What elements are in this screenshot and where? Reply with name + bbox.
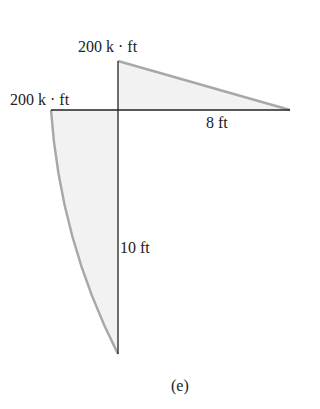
- top-moment-label: 200 k · ft: [78, 39, 137, 55]
- horizontal-length-label: 8 ft: [206, 115, 228, 131]
- vertical-member-moment-region: [51, 110, 118, 354]
- figure-caption: (e): [171, 378, 189, 394]
- moment-diagram: 200 k · ft 200 k · ft 8 ft 10 ft (e): [0, 0, 320, 409]
- vertical-length-label: 10 ft: [120, 240, 150, 256]
- diagram-graphics: [0, 0, 320, 409]
- left-moment-label: 200 k · ft: [10, 92, 69, 108]
